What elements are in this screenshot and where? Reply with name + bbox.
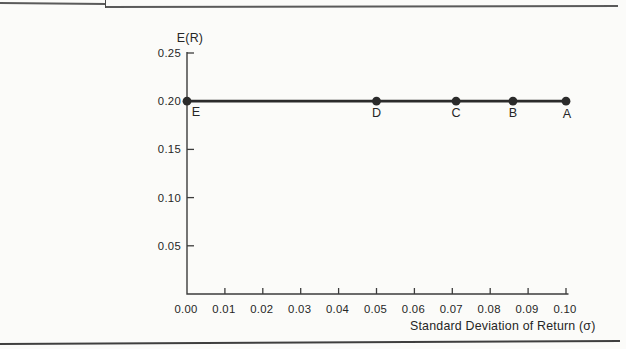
- y-axis-title: E(R): [177, 31, 203, 45]
- x-tick-label: 0.09: [516, 303, 539, 315]
- data-point-A: [562, 97, 571, 106]
- x-tick-label: 0.03: [288, 303, 311, 315]
- risk-return-chart: E(R) Standard Deviation of Return (σ) 0.…: [0, 0, 626, 349]
- x-tick-label: 0.04: [326, 303, 349, 315]
- y-tick-label: 0.20: [158, 95, 181, 107]
- y-tick-label: 0.15: [158, 143, 181, 155]
- x-tick-label: 0.07: [440, 303, 463, 315]
- x-tick-label: 0.10: [553, 303, 576, 315]
- x-tick-label: 0.06: [402, 303, 425, 315]
- data-point-label-E: E: [192, 105, 200, 119]
- data-point-label-C: C: [452, 106, 461, 120]
- data-point-C: [452, 97, 461, 106]
- data-point-label-B: B: [509, 106, 517, 120]
- axes-lines: [187, 52, 569, 294]
- x-axis-title: Standard Deviation of Return (σ): [410, 319, 596, 333]
- data-point-B: [509, 97, 518, 106]
- x-tick-label: 0.05: [364, 303, 387, 315]
- data-point-E: [183, 97, 192, 106]
- y-tick-label: 0.10: [158, 192, 181, 204]
- y-tick-label: 0.05: [158, 240, 181, 252]
- data-point-label-A: A: [563, 107, 572, 121]
- data-point-label-D: D: [372, 106, 381, 120]
- y-tick-label: 0.25: [158, 47, 181, 59]
- data-point-D: [372, 97, 381, 106]
- x-tick-label: 0.00: [174, 303, 197, 315]
- x-tick-label: 0.08: [478, 303, 501, 315]
- x-tick-label: 0.01: [212, 303, 235, 315]
- scanned-page: E(R) Standard Deviation of Return (σ) 0.…: [0, 0, 626, 349]
- x-tick-label: 0.02: [250, 303, 273, 315]
